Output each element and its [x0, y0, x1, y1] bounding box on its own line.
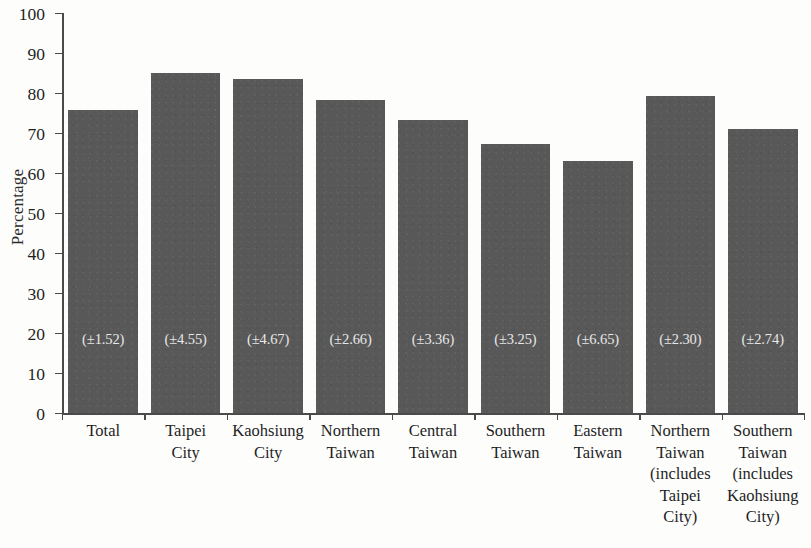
bar: (±3.36): [398, 120, 468, 413]
bar: (±2.30): [646, 96, 716, 413]
y-axis-tick-label: 80: [28, 83, 46, 104]
x-axis-tick: [392, 413, 393, 420]
bar-error-label: (±1.52): [68, 331, 138, 348]
x-axis-category-label-line: City): [722, 506, 804, 528]
x-axis-category-label: CentralTaiwan: [392, 420, 474, 463]
x-axis-category-label-line: Taiwan: [392, 442, 474, 464]
x-axis-category-labels: TotalTaipeiCityKaohsiungCityNorthernTaiw…: [62, 420, 804, 548]
y-axis-tick-label: 50: [28, 203, 46, 224]
x-axis-category-label-line: Northern: [639, 420, 721, 442]
x-axis-category-label: Total: [62, 420, 144, 442]
x-axis-category-label-line: Northern: [309, 420, 391, 442]
x-axis-category-label: NorthernTaiwan(includesTaipeiCity): [639, 420, 721, 528]
x-axis-category-label-line: Taiwan: [639, 442, 721, 464]
x-axis-category-label-line: Taipei: [639, 485, 721, 507]
x-axis-tick: [722, 413, 723, 420]
x-axis-tick: [804, 413, 805, 420]
x-axis-category-label-line: Taipei: [144, 420, 226, 442]
bar: (±2.74): [728, 129, 798, 413]
y-axis-tick-label: 90: [28, 43, 46, 64]
y-axis-tick: 100: [55, 13, 62, 14]
bar: (±2.66): [316, 100, 386, 413]
x-axis-tick: [557, 413, 558, 420]
x-axis-category-label-line: Southern: [722, 420, 804, 442]
bar: (±4.55): [151, 73, 221, 413]
x-axis-category-label-line: Eastern: [557, 420, 639, 442]
y-axis-tick: 30: [55, 293, 62, 294]
x-axis-line: [62, 413, 804, 415]
x-axis-tick: [62, 413, 63, 420]
bar-error-label: (±2.30): [646, 331, 716, 348]
y-axis-tick: 20: [55, 333, 62, 334]
x-axis-category-label: NorthernTaiwan: [309, 420, 391, 463]
x-axis-category-label: SouthernTaiwan: [474, 420, 556, 463]
bar-error-label: (±2.74): [728, 331, 798, 348]
bar-error-label: (±4.55): [151, 331, 221, 348]
bar-error-label: (±2.66): [316, 331, 386, 348]
y-axis-tick: 50: [55, 213, 62, 214]
bar-error-label: (±3.25): [481, 331, 551, 348]
y-axis-tick: 0: [55, 413, 62, 414]
x-axis-tick: [227, 413, 228, 420]
y-axis-tick: 80: [55, 93, 62, 94]
y-axis-tick-label: 60: [28, 163, 46, 184]
bar: (±3.25): [481, 144, 551, 413]
x-axis-category-label-line: Taiwan: [474, 442, 556, 464]
bar-error-label: (±4.67): [233, 331, 303, 348]
plot-area: 0102030405060708090100 (±1.52)(±4.55)(±4…: [62, 13, 804, 413]
x-axis-category-label: EasternTaiwan: [557, 420, 639, 463]
bar: (±4.67): [233, 79, 303, 413]
y-axis-tick: 70: [55, 133, 62, 134]
y-axis-tick: 10: [55, 373, 62, 374]
y-axis-tick-label: 30: [28, 283, 46, 304]
x-axis-category-label-line: (includes: [722, 463, 804, 485]
x-axis-category-label-line: City: [144, 442, 226, 464]
x-axis-category-label-line: City: [227, 442, 309, 464]
x-axis-category-label: SouthernTaiwan(includesKaohsiungCity): [722, 420, 804, 528]
x-axis-category-label-line: Kaohsiung: [722, 485, 804, 507]
x-axis-tick: [309, 413, 310, 420]
x-axis-tick: [639, 413, 640, 420]
bar-error-label: (±6.65): [563, 331, 633, 348]
y-axis-tick: 90: [55, 53, 62, 54]
x-axis-category-label-line: (includes: [639, 463, 721, 485]
y-axis-tick-label: 10: [28, 363, 46, 384]
y-axis-tick: 40: [55, 253, 62, 254]
y-axis-tick-label: 70: [28, 123, 46, 144]
x-axis-tick: [144, 413, 145, 420]
x-axis-category-label-line: Kaohsiung: [227, 420, 309, 442]
bar: (±1.52): [68, 110, 138, 413]
y-axis-tick: 60: [55, 173, 62, 174]
x-axis-category-label-line: Taiwan: [309, 442, 391, 464]
x-axis-category-label-line: City): [639, 506, 721, 528]
y-axis-title-text: Percentage: [8, 168, 28, 245]
bar-chart: Percentage 0102030405060708090100 (±1.52…: [0, 0, 811, 548]
x-axis-category-label-line: Taiwan: [557, 442, 639, 464]
y-axis-tick-label: 0: [36, 403, 45, 424]
y-axis-tick-label: 20: [28, 323, 46, 344]
x-axis-category-label-line: Southern: [474, 420, 556, 442]
y-axis-line: [62, 13, 64, 413]
x-axis-tick: [474, 413, 475, 420]
x-axis-category-label-line: Taiwan: [722, 442, 804, 464]
x-axis-category-label: KaohsiungCity: [227, 420, 309, 463]
bar: (±6.65): [563, 161, 633, 413]
x-axis-category-label-line: Total: [62, 420, 144, 442]
bar-error-label: (±3.36): [398, 331, 468, 348]
x-axis-category-label-line: Central: [392, 420, 474, 442]
y-axis-tick-label: 100: [19, 3, 45, 24]
x-axis-category-label: TaipeiCity: [144, 420, 226, 463]
y-axis-tick-label: 40: [28, 243, 46, 264]
